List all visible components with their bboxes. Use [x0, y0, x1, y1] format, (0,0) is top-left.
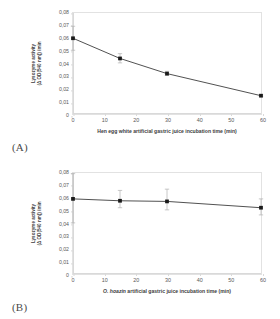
x-tick-label: 40 — [197, 114, 203, 123]
x-tick-label: 20 — [133, 274, 139, 283]
y-axis-label-a: Lysozyme activity (Δ OD(540 nm)) /min — [30, 12, 44, 115]
data-point-marker — [118, 57, 122, 61]
x-tick-label: 10 — [102, 274, 108, 283]
plot-area-b: 00,010,020,030,040,050,060,070,08 010203… — [72, 172, 262, 275]
x-tick-label: 0 — [72, 114, 75, 123]
y-tick-label: 0,04 — [59, 62, 73, 67]
y-tick-label: 0,03 — [59, 75, 73, 80]
y-axis-label-b-line2: (Δ OD(540 nm)) /min — [37, 201, 43, 245]
series-plot-a — [73, 13, 261, 114]
panel-tag-a: (A) — [12, 141, 28, 153]
x-tick-label: 10 — [102, 114, 108, 123]
x-tick-label: 50 — [228, 274, 234, 283]
y-tick-label: 0,06 — [59, 196, 73, 201]
x-axis-label-b: O. hoazin artificial gastric juice incub… — [72, 288, 262, 294]
x-axis-label-b-species: O. hoazin — [103, 288, 126, 294]
y-tick-label: 0,06 — [59, 36, 73, 41]
x-tick-label: 30 — [165, 114, 171, 123]
figure-panel-a: Lysozyme activity (Δ OD(540 nm)) /min 00… — [0, 0, 280, 159]
data-point-marker — [165, 72, 169, 76]
y-tick-label: 0,01 — [59, 261, 73, 266]
y-tick-label: 0,05 — [59, 49, 73, 54]
data-point-marker — [118, 199, 122, 203]
y-axis-label-b: Lysozyme activity (Δ OD(540 nm)) /min — [30, 172, 44, 275]
data-point-marker — [71, 36, 75, 40]
x-tick-label: 40 — [197, 274, 203, 283]
y-tick-label: 0,08 — [59, 170, 73, 175]
x-axis-label-b-rest: artificial gastric juice incubation time… — [126, 288, 231, 294]
x-tick-label: 50 — [228, 114, 234, 123]
series-plot-b — [73, 173, 261, 274]
data-point-marker — [259, 206, 263, 210]
y-tick-label: 0,07 — [59, 23, 73, 28]
y-tick-label: 0,08 — [59, 10, 73, 15]
x-tick-label: 20 — [133, 114, 139, 123]
error-bar — [165, 189, 169, 210]
y-tick-label: 0,03 — [59, 235, 73, 240]
x-tick-label: 0 — [72, 274, 75, 283]
plot-area-a: 00,010,020,030,040,050,060,070,08 010203… — [72, 12, 262, 115]
panel-tag-b: (B) — [12, 301, 27, 313]
series-line — [73, 38, 261, 95]
data-point-marker — [259, 94, 263, 98]
x-tick-label: 30 — [165, 274, 171, 283]
x-axis-label-a: Hen egg white artificial gastric juice i… — [72, 128, 262, 134]
y-tick-label: 0,05 — [59, 209, 73, 214]
data-point-marker — [165, 200, 169, 204]
y-tick-label: 0,07 — [59, 183, 73, 188]
figure-panel-b: Lysozyme activity (Δ OD(540 nm)) /min 00… — [0, 160, 280, 319]
data-point-marker — [71, 197, 75, 201]
y-tick-label: 0,01 — [59, 101, 73, 106]
x-tick-label: 60 — [260, 114, 266, 123]
y-tick-label: 0,02 — [59, 248, 73, 253]
y-axis-label-a-line2: (Δ OD(540 nm)) /min — [37, 41, 43, 85]
y-tick-label: 0,02 — [59, 88, 73, 93]
x-tick-label: 60 — [260, 274, 266, 283]
